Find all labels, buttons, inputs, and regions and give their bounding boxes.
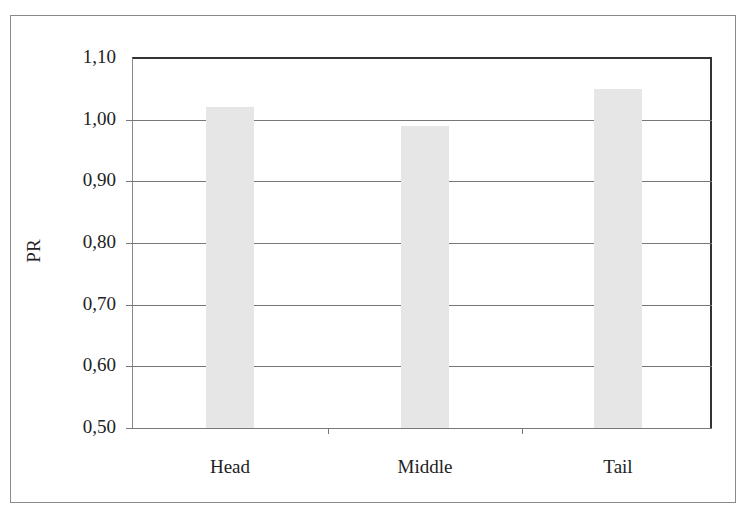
y-tick-label: 1,00 bbox=[52, 109, 116, 129]
x-tick-label: Head bbox=[160, 456, 300, 478]
x-tick-label: Middle bbox=[355, 456, 495, 478]
x-tick-label: Tail bbox=[548, 456, 688, 478]
y-axis-label: PR bbox=[23, 239, 45, 262]
x-axis-line bbox=[126, 428, 712, 429]
y-tick-label: 0,50 bbox=[52, 417, 116, 437]
y-tick-label: 0,60 bbox=[52, 355, 116, 375]
y-tick-label: 0,80 bbox=[52, 232, 116, 252]
y-tick-label: 1,10 bbox=[52, 47, 116, 67]
x-tick-mark bbox=[522, 428, 523, 434]
bar-tail bbox=[594, 89, 642, 428]
bar-head bbox=[206, 107, 254, 428]
y-tick-label: 0,70 bbox=[52, 294, 116, 314]
bar-middle bbox=[401, 126, 449, 428]
y-tick-label: 0,90 bbox=[52, 170, 116, 190]
x-tick-mark bbox=[328, 428, 329, 434]
